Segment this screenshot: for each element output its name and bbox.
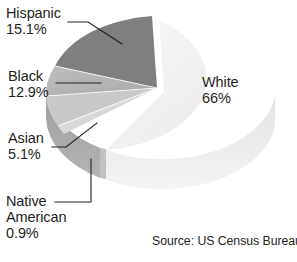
pie-side-wall-native (100, 148, 106, 179)
pie-label-asian-value: 5.1% (8, 146, 44, 162)
pie-label-hispanic-name: Hispanic (6, 5, 61, 21)
pie-label-hispanic: Hispanic 15.1% (6, 5, 61, 37)
pie-label-native-american-name2: American (6, 209, 66, 225)
pie-label-black: Black 12.9% (8, 68, 49, 100)
pie-label-black-value: 12.9% (8, 84, 49, 100)
pie-label-asian: Asian 5.1% (8, 130, 44, 162)
pie-label-asian-name: Asian (8, 130, 44, 146)
pie-label-native-american: Native American 0.9% (6, 193, 66, 242)
pie-label-black-name: Black (8, 68, 49, 84)
pie-back-group (46, 16, 157, 179)
source-attribution: Source: US Census Bureau (152, 234, 297, 248)
pie-label-native-american-value: 0.9% (6, 225, 66, 241)
pie-label-white-name: White (202, 74, 239, 90)
pie-label-white: White 66% (202, 74, 239, 106)
pie-label-hispanic-value: 15.1% (6, 21, 61, 37)
pie-label-white-value: 66% (202, 90, 239, 106)
pie-chart-figure: Hispanic 15.1% Black 12.9% Asian 5.1% Na… (0, 0, 297, 262)
pie-label-native-american-name1: Native (6, 193, 66, 209)
